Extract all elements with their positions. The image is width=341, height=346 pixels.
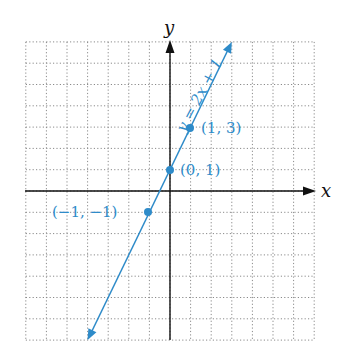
coordinate-plane: x y (−1, −1) (0, 1) (1, 3) y = 2x + 1 <box>0 0 341 346</box>
point-neg1-neg1 <box>144 208 152 216</box>
x-axis-arrow-icon <box>303 187 316 196</box>
point-label-1-3: (1, 3) <box>201 119 241 137</box>
x-axis-label: x <box>321 180 331 201</box>
point-label-0-1: (0, 1) <box>180 161 220 179</box>
point-0-1 <box>166 166 174 174</box>
point-label-neg1-neg1: (−1, −1) <box>52 203 117 221</box>
y-axis-label: y <box>163 17 175 38</box>
